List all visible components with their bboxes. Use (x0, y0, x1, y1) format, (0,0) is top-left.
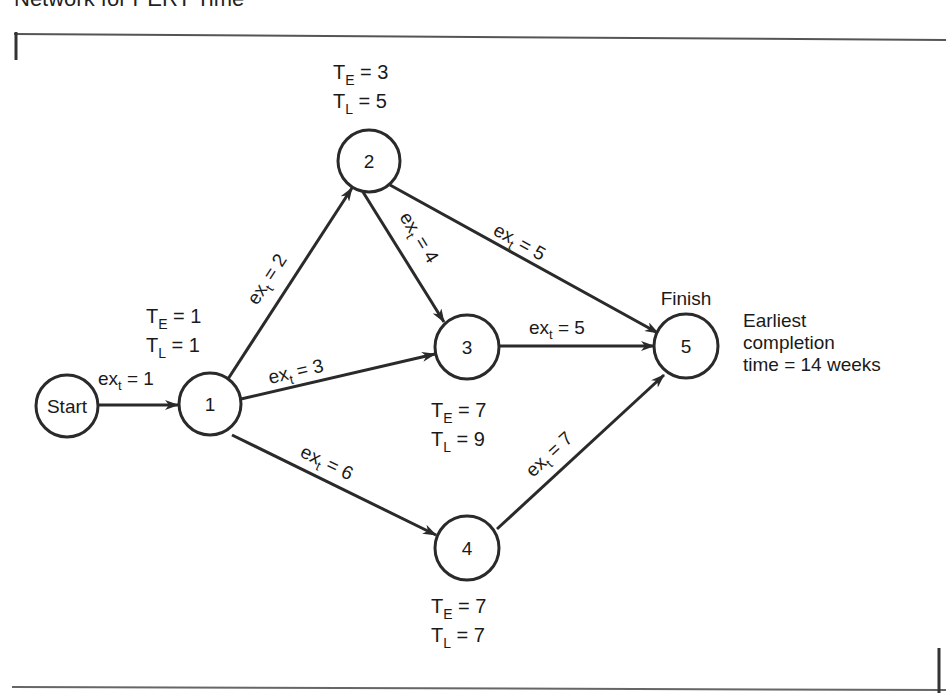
svg-text:TE = 7: TE = 7 (431, 595, 486, 622)
pert-network-diagram: Start 1 2 3 4 5 Finish TE = 3 TL = 5 TE … (0, 0, 946, 693)
node-1-times: TE = 1 TL = 1 (146, 305, 201, 361)
edge-label-1-2: ext = 2 (243, 250, 294, 311)
completion-note: Earliest completion time = 14 weeks (743, 310, 881, 375)
edge-1-2 (228, 188, 352, 379)
node-2-label: 2 (364, 151, 375, 172)
finish-caption: Finish (661, 288, 712, 309)
edge-label-2-3: ext = 4 (392, 208, 443, 269)
svg-text:TE = 1: TE = 1 (146, 305, 201, 332)
edge-label-start-1: ext = 1 (98, 368, 154, 393)
svg-text:TE = 7: TE = 7 (431, 399, 486, 426)
node-start-label: Start (47, 396, 88, 417)
edge-label-3-5: ext = 5 (529, 317, 585, 342)
node-3-label: 3 (462, 337, 473, 358)
node-5-label: 5 (681, 336, 692, 357)
svg-text:completion: completion (743, 332, 835, 353)
edge-4-5 (497, 375, 664, 529)
svg-text:TL = 9: TL = 9 (431, 428, 485, 455)
edge-1-4 (232, 435, 436, 535)
edge-label-4-5: ext = 7 (521, 427, 579, 483)
node-2-times: TE = 3 TL = 5 (333, 61, 388, 117)
node-4-times: TE = 7 TL = 7 (431, 595, 486, 651)
svg-text:TL = 5: TL = 5 (333, 90, 387, 117)
svg-text:TL = 1: TL = 1 (146, 334, 200, 361)
svg-text:Earliest: Earliest (743, 310, 807, 331)
node-1-label: 1 (205, 394, 216, 415)
node-4-label: 4 (462, 538, 473, 559)
svg-text:time = 14 weeks: time = 14 weeks (743, 354, 881, 375)
svg-text:TE = 3: TE = 3 (333, 61, 388, 88)
node-3-times: TE = 7 TL = 9 (431, 399, 486, 455)
svg-text:TL = 7: TL = 7 (431, 624, 485, 651)
